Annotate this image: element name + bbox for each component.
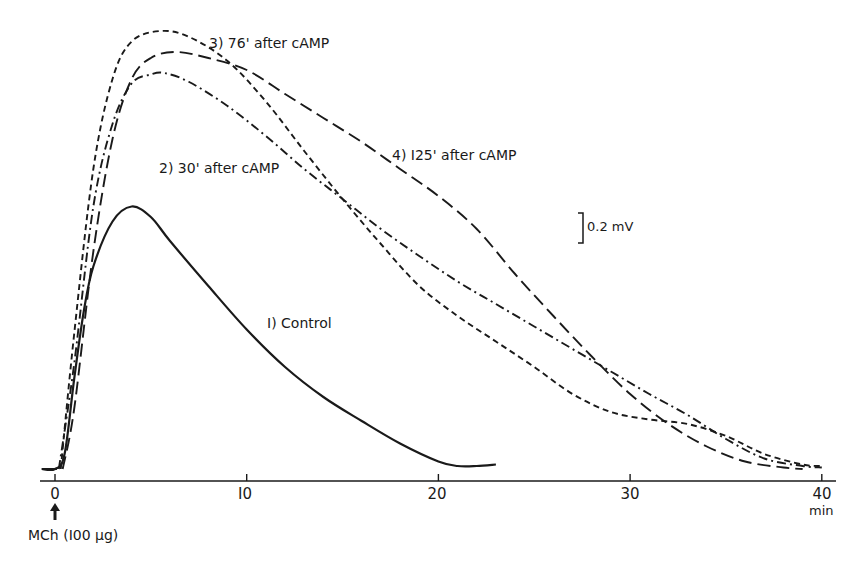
x-tick-30: 30 — [620, 485, 639, 503]
up-arrow-icon — [50, 503, 60, 520]
x-tick-10: I0 — [238, 485, 252, 503]
x-tick-20: 20 — [427, 485, 446, 503]
series-1-line — [42, 206, 496, 470]
series-3-line — [61, 31, 822, 469]
scale-bar — [578, 213, 583, 243]
curves — [42, 31, 822, 470]
curve4-label: 4) I25' after cAMP — [392, 147, 516, 163]
series-2-line — [59, 72, 822, 469]
curve3-label: 3) 76' after cAMP — [209, 35, 329, 51]
x-tick-0: 0 — [50, 485, 60, 503]
x-tick-40: 40 — [812, 485, 831, 503]
stimulus-label: MCh (I00 µg) — [28, 527, 118, 543]
series-4-line — [63, 52, 803, 469]
plot-area — [0, 0, 867, 567]
x-axis — [40, 474, 836, 481]
curve1-label: I) Control — [267, 315, 332, 331]
curve2-label: 2) 30' after cAMP — [159, 160, 279, 176]
scale-bar-label: 0.2 mV — [587, 219, 633, 234]
x-axis-unit: min — [809, 503, 834, 518]
